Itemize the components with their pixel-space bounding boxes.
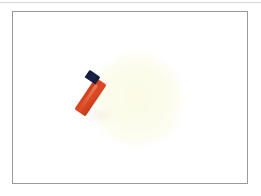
object-shadow [86, 112, 112, 119]
object-body [74, 78, 106, 117]
lighter-object [68, 70, 128, 126]
top-hairline-divider [0, 2, 261, 3]
image-canvas [0, 0, 261, 196]
picture-frame [12, 11, 248, 184]
